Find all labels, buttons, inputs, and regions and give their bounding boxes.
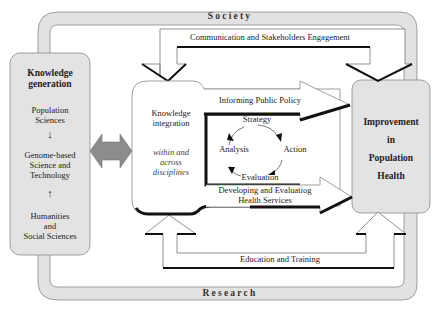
bidirectional-arrow <box>90 134 132 168</box>
cycle-analysis: Analysis <box>214 145 254 155</box>
society-label: Society <box>190 11 270 22</box>
arrow-down-icon: ↓ <box>10 128 90 141</box>
cycle-action: Action <box>275 145 315 155</box>
cycle-strategy: Strategy <box>232 115 282 125</box>
knowledge-integration-title: Knowledge integration <box>140 109 202 129</box>
policy-label: Informing Public Policy <box>205 96 315 106</box>
knowledge-generation-title: Knowledge generation <box>10 68 90 90</box>
services-label: Developing and Evaluatiog Health Service… <box>205 186 325 206</box>
cycle-evaluation: Evaluation <box>232 173 288 183</box>
education-label: Education and Training <box>180 255 380 265</box>
population-health-title: Improvement in Population Health <box>352 113 430 185</box>
communication-label: Communication and Stakeholders Engagemen… <box>165 33 375 43</box>
genome-science-label: Genome-based Science and Technology <box>10 151 90 180</box>
within-across-disciplines: within and across disciplines <box>140 148 202 177</box>
arrow-up-icon: ↑ <box>10 187 90 200</box>
research-label: Research <box>180 288 280 299</box>
population-sciences-label: Population Sciences <box>10 106 90 126</box>
humanities-label: Humanities and Social Sciences <box>10 212 90 241</box>
